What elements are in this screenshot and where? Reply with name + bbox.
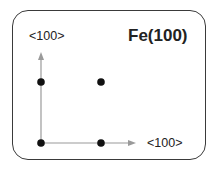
atom [37,78,45,86]
atoms [37,78,105,147]
x-axis-arrow [41,140,136,146]
lattice-diagram [0,0,217,170]
atom [97,139,105,147]
atom [97,78,105,86]
atom [37,139,45,147]
y-axis-arrow [38,52,44,143]
